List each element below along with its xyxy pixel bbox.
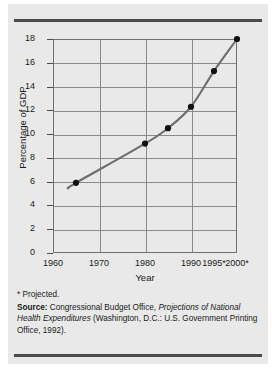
y-tick-label-14: 14 <box>9 82 35 91</box>
data-point-1995 <box>211 68 217 74</box>
source-citation: Source: Congressional Budget Office, Pro… <box>17 302 261 337</box>
data-point-1990 <box>188 104 194 110</box>
bottom-rule-divider <box>14 354 262 357</box>
y-tick-label-12: 12 <box>9 105 35 114</box>
data-point-1965 <box>73 180 79 186</box>
data-point-1980 <box>142 141 148 147</box>
y-tick-label-10: 10 <box>9 129 35 138</box>
figure-chart-national-health-expenditures: Percentage of GDP 181614121086420 196019… <box>0 0 276 369</box>
y-tick-label-4: 4 <box>9 200 35 209</box>
data-point-1985 <box>165 125 171 131</box>
source-text-part1: Congressional Budget Office, <box>47 303 158 312</box>
x-tick-label-1960: 1960 <box>37 258 69 268</box>
data-series-line <box>53 39 237 253</box>
x-tick-label-2000: 2000* <box>221 258 253 268</box>
y-tick-label-18: 18 <box>9 34 35 43</box>
y-tick-mark-0 <box>47 253 53 254</box>
plot-region: Percentage of GDP 181614121086420 196019… <box>0 0 276 290</box>
data-point-2000 <box>234 36 240 42</box>
y-tick-label-0: 0 <box>9 248 35 257</box>
y-tick-label-6: 6 <box>9 177 35 186</box>
x-tick-label-1970: 1970 <box>83 258 115 268</box>
y-tick-label-2: 2 <box>9 224 35 233</box>
x-axis-title: Year <box>53 272 237 283</box>
y-tick-label-8: 8 <box>9 153 35 162</box>
y-tick-label-16: 16 <box>9 58 35 67</box>
x-tick-label-1980: 1980 <box>129 258 161 268</box>
series-line-path <box>68 39 237 188</box>
source-label: Source: <box>17 303 47 312</box>
footnote-projected: * Projected. <box>17 289 261 301</box>
notes-block: * Projected. Source: Congressional Budge… <box>17 289 261 336</box>
